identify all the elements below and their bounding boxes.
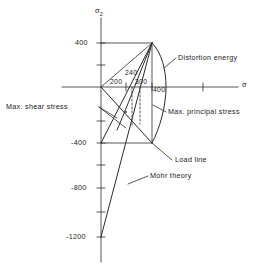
annotation-max-principal-stress: Max. principal stress (168, 108, 240, 115)
y-axis-label: σ2 (95, 6, 103, 17)
leader-lines (99, 58, 176, 184)
annotation-load-line: Load line (175, 156, 207, 163)
y-tick-label-neg1200: -1200 (66, 233, 86, 240)
x-axis-label: σ (242, 80, 247, 89)
y-tick-label-neg400: -400 (71, 139, 87, 146)
x-tick-label-240: 240 (125, 70, 137, 77)
diagram-canvas (0, 0, 280, 273)
annotation-mohr-theory: Mohr theory (150, 172, 192, 179)
y-tick-label-400: 400 (75, 39, 88, 46)
x-tick-label-200: 200 (110, 79, 122, 86)
series-max-shear-stress (101, 43, 152, 143)
annotation-max-shear-stress: Max. shear stress (6, 103, 68, 110)
annotation-distortion-energy: Distortion energy (178, 54, 237, 61)
stress-failure-theory-diagram: σ2 σ 400 -400 -800 -1200 240 200 300 400… (0, 0, 280, 273)
x-tick-label-300: 300 (135, 79, 147, 86)
y-tick-label-neg800: -800 (71, 184, 87, 191)
x-tick-label-400: 400 (153, 87, 165, 94)
intersection-point (125, 111, 127, 113)
